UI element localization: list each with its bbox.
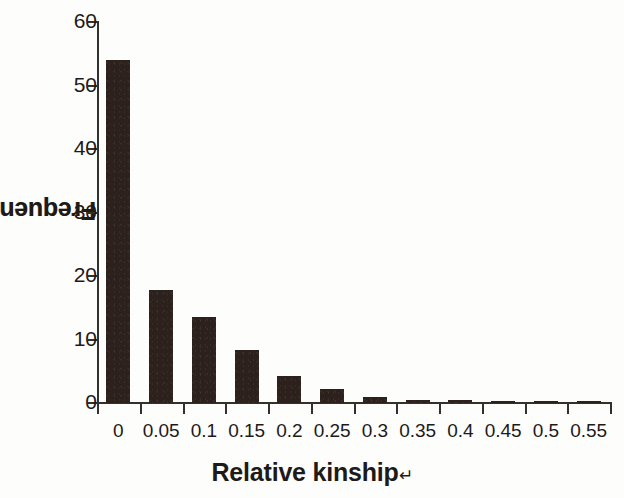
x-axis-tick-label: 0.45	[482, 420, 525, 446]
bar	[149, 290, 173, 403]
x-axis-tick-labels: 00.050.10.150.20.250.30.350.40.450.50.55	[97, 420, 610, 446]
bar-slot	[140, 22, 183, 403]
bar-slot	[97, 22, 140, 403]
x-axis-tick-mark	[439, 403, 441, 414]
x-axis-tick-mark	[610, 403, 612, 414]
bar-slot	[525, 22, 568, 403]
bar-series	[97, 22, 610, 403]
x-axis-tick-mark	[97, 403, 99, 414]
bar-slot	[482, 22, 525, 403]
x-axis-title-text: Relative kinship	[212, 458, 399, 486]
x-axis-title-return-mark: ↵	[399, 466, 413, 485]
x-axis-tick-label: 0.5	[525, 420, 568, 446]
x-axis-tick-label: 0.35	[396, 420, 439, 446]
x-axis-tick-label: 0.3	[354, 420, 397, 446]
bar-slot	[311, 22, 354, 403]
x-axis-ticks	[97, 403, 610, 414]
y-axis-tick-label: 50	[53, 73, 97, 97]
x-axis-tick-label: 0	[97, 420, 140, 446]
bar	[320, 389, 344, 403]
plot-area	[97, 22, 610, 403]
bar	[106, 60, 130, 403]
bar-chart-figure: Frequency(%)↵ 0102030405060 00.050.10.15…	[0, 0, 624, 498]
bar	[277, 376, 301, 403]
y-axis-tick-label: 20	[53, 263, 97, 287]
bar-slot	[354, 22, 397, 403]
x-axis-tick-mark	[525, 403, 527, 414]
x-axis-tick-mark	[567, 403, 569, 414]
x-axis-tick-mark	[354, 403, 356, 414]
bar	[192, 317, 216, 403]
x-axis-tick-label: 0.25	[311, 420, 354, 446]
x-axis-tick-label: 0.05	[140, 420, 183, 446]
x-axis-tick-mark	[396, 403, 398, 414]
x-axis-tick-label: 0.2	[268, 420, 311, 446]
y-axis-tick-label: 10	[53, 327, 97, 351]
y-axis-tick-label: 60	[53, 9, 97, 33]
x-axis-tick-mark	[311, 403, 313, 414]
x-axis-tick-mark	[482, 403, 484, 414]
y-axis-tick-label: 0	[53, 390, 97, 414]
y-axis-title: Frequency(%)↵	[0, 0, 60, 420]
y-axis-tick-label: 40	[53, 136, 97, 160]
bar	[235, 350, 259, 403]
bar-slot	[567, 22, 610, 403]
x-axis-tick-mark	[140, 403, 142, 414]
bar-slot	[183, 22, 226, 403]
bar-slot	[268, 22, 311, 403]
x-axis-tick-label: 0.1	[183, 420, 226, 446]
x-axis-tick-label: 0.15	[225, 420, 268, 446]
bar-slot	[439, 22, 482, 403]
x-axis-title: Relative kinship↵	[0, 458, 624, 487]
x-axis-tick-label: 0.4	[439, 420, 482, 446]
bar-slot	[225, 22, 268, 403]
y-axis-tick-label: 30	[53, 200, 97, 224]
x-axis-tick-mark	[268, 403, 270, 414]
x-axis-tick-mark	[225, 403, 227, 414]
bar-slot	[396, 22, 439, 403]
x-axis-tick-label: 0.55	[567, 420, 610, 446]
x-axis-tick-mark	[183, 403, 185, 414]
